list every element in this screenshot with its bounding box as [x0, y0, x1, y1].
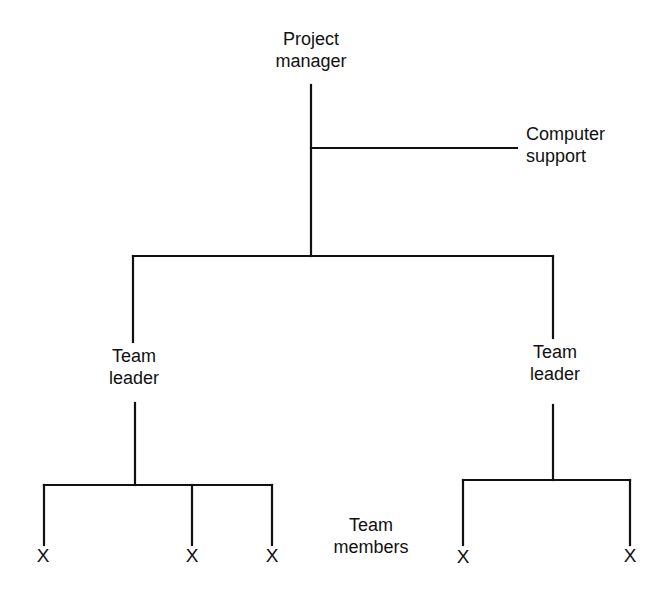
team-member-left-3: X: [266, 546, 279, 566]
project-manager-label-line1: Project: [275, 28, 346, 50]
org-chart: Project manager Computer support Team le…: [0, 0, 664, 590]
team-members-label-line2: members: [333, 536, 408, 558]
team-leader-left-label-line1: Team: [109, 345, 159, 367]
project-manager-label-line2: manager: [275, 50, 346, 72]
team-members-label-line1: Team: [333, 514, 408, 536]
project-manager-node: Project manager: [275, 28, 346, 72]
computer-support-node: Computer support: [526, 123, 605, 167]
team-member-left-1: X: [37, 546, 50, 566]
computer-support-label-line1: Computer: [526, 123, 605, 145]
team-leader-right-label-line2: leader: [530, 363, 580, 385]
team-leader-left-label-line2: leader: [109, 367, 159, 389]
team-members-label: Team members: [333, 514, 408, 558]
team-member-left-2: X: [186, 546, 199, 566]
team-leader-right-node: Team leader: [530, 341, 580, 385]
connector-lines: [0, 0, 664, 590]
team-leader-right-label-line1: Team: [530, 341, 580, 363]
team-member-right-2: X: [624, 546, 637, 566]
team-member-right-1: X: [457, 547, 470, 567]
computer-support-label-line2: support: [526, 145, 605, 167]
team-leader-left-node: Team leader: [109, 345, 159, 389]
